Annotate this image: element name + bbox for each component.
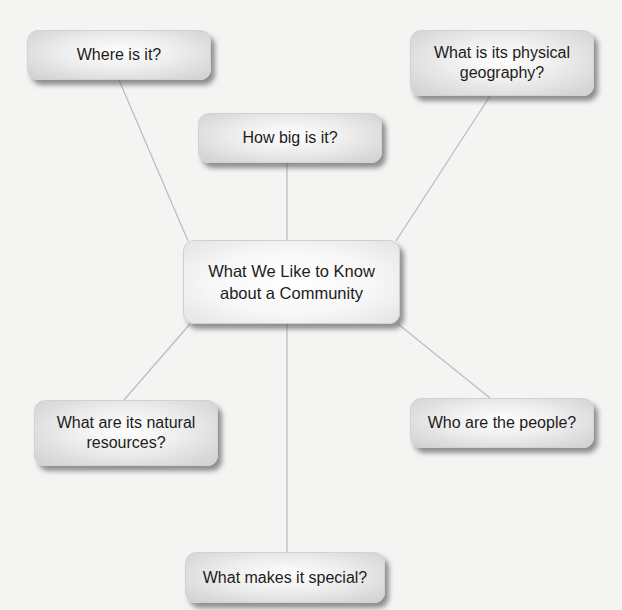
connector-natural-resources <box>124 324 190 400</box>
node-label: Where is it? <box>77 45 161 65</box>
connector-where <box>119 80 188 241</box>
concept-map: Where is it? What is its physical geogra… <box>0 0 622 610</box>
connector-physical-geography <box>396 96 490 241</box>
node-physical-geography: What is its physical geography? <box>410 30 594 96</box>
node-natural-resources: What are its natural resources? <box>34 400 218 466</box>
node-people: Who are the people? <box>410 398 594 448</box>
central-label-line1: What We Like to Know <box>208 260 375 282</box>
node-label: What makes it special? <box>203 568 368 588</box>
node-label-line2: geography? <box>460 63 545 83</box>
central-label-line2: about a Community <box>220 282 363 304</box>
connector-people <box>398 324 490 398</box>
node-label-line2: resources? <box>86 433 165 453</box>
node-label: How big is it? <box>242 128 337 148</box>
node-label-line1: What are its natural <box>57 413 196 433</box>
node-central-topic: What We Like to Know about a Community <box>183 240 400 324</box>
node-label: Who are the people? <box>428 413 577 433</box>
node-special: What makes it special? <box>185 552 385 603</box>
node-label-line1: What is its physical <box>434 43 570 63</box>
node-where: Where is it? <box>27 30 211 80</box>
node-how-big: How big is it? <box>198 113 382 163</box>
